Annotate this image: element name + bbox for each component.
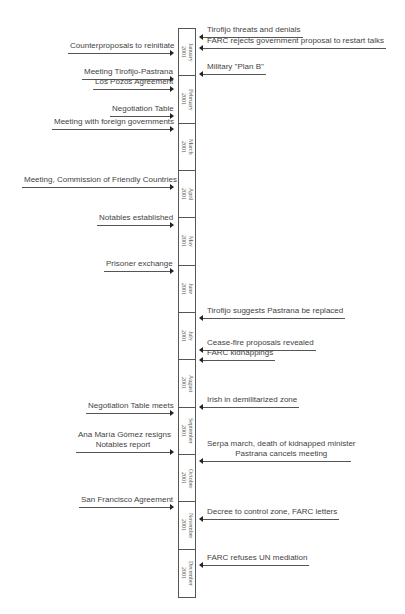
right-event: Serpa march, death of kidnapped minister… <box>201 439 358 459</box>
right-event: Military "Plan B" <box>201 62 266 72</box>
arrow-left-icon <box>199 458 203 464</box>
arrow-left-icon <box>199 562 203 568</box>
event-label: Tirofijo suggests Pastrana be replaced <box>201 306 345 316</box>
month-label: January 2001 <box>180 43 194 62</box>
left-event: Meeting with foreign governments <box>52 117 170 133</box>
month-box-february: February 2001 <box>179 76 195 123</box>
month-label: October 2001 <box>180 469 194 488</box>
arrow-right-icon <box>170 222 174 228</box>
left-event: Prisoner exchange <box>104 259 170 275</box>
left-event: Notables established <box>97 213 170 229</box>
arrow-right-icon <box>170 50 174 56</box>
month-box-july: July 2001 <box>179 313 195 360</box>
event-label: Military "Plan B" <box>201 62 266 72</box>
event-label: Meeting with foreign governments <box>52 117 170 127</box>
event-label: Tirofijo threats and denials <box>201 25 303 35</box>
arrow-right-icon <box>170 410 174 416</box>
left-event: Meeting, Commission of Friendly Countrie… <box>22 175 170 191</box>
left-event: Los Pozos Agreement <box>93 77 170 93</box>
month-box-november: November 2001 <box>179 502 195 549</box>
event-label: Los Pozos Agreement <box>93 77 170 87</box>
arrow-left-icon <box>199 71 203 77</box>
month-box-april: April 2001 <box>179 171 195 218</box>
event-label: Irish in demilitarized zone <box>201 395 299 405</box>
month-box-august: August 2001 <box>179 360 195 407</box>
arrow-right-icon <box>170 268 174 274</box>
event-label: Ana María Gómez resigns <box>76 430 170 440</box>
connector-line <box>68 53 170 54</box>
connector-line <box>203 461 351 462</box>
month-label: November 2001 <box>180 513 194 538</box>
connector-line <box>203 360 275 361</box>
right-event: FARC kidnappings <box>201 348 275 358</box>
arrow-right-icon <box>170 86 174 92</box>
month-box-september: September 2001 <box>179 408 195 455</box>
right-event: FARC rejects government proposal to rest… <box>201 36 386 46</box>
connector-line <box>203 48 386 49</box>
connector-line <box>203 565 309 566</box>
event-label: Negotiation Table <box>110 104 170 114</box>
month-label: March 2001 <box>180 139 194 155</box>
arrow-right-icon <box>170 184 174 190</box>
month-label: April 2001 <box>180 188 194 201</box>
event-label: Decree to control zone, FARC letters <box>201 507 339 517</box>
month-box-october: October 2001 <box>179 455 195 502</box>
connector-line <box>52 129 170 130</box>
left-event: Negotiation Table meets <box>86 401 170 417</box>
arrow-left-icon <box>199 315 203 321</box>
event-label: Negotiation Table meets <box>86 401 170 411</box>
left-event: Counterproposals to reinitiate <box>68 41 170 57</box>
month-box-may: May 2001 <box>179 218 195 265</box>
month-label: June 2001 <box>180 283 194 295</box>
arrow-right-icon <box>170 126 174 132</box>
connector-line <box>203 519 339 520</box>
right-event: Tirofijo threats and denials <box>201 25 303 35</box>
connector-line <box>22 187 170 188</box>
month-label: July 2001 <box>180 330 194 342</box>
event-label: Meeting Tirofijo-Pastrana <box>82 67 170 77</box>
month-label: May 2001 <box>180 235 194 247</box>
event-label: San Francisco Agreement <box>79 495 170 505</box>
connector-line <box>203 74 266 75</box>
left-event: Ana María Gómez resignsNotables report <box>76 430 170 456</box>
month-box-december: December 2001 <box>179 550 195 597</box>
right-event: FARC refuses UN mediation <box>201 553 309 563</box>
month-box-march: March 2001 <box>179 124 195 171</box>
timeline-bar: January 2001February 2001March 2001April… <box>178 28 196 598</box>
connector-line <box>86 413 170 414</box>
connector-line <box>203 407 299 408</box>
event-label: Cease-fire proposals revealed <box>201 338 316 348</box>
event-label: FARC refuses UN mediation <box>201 553 309 563</box>
connector-line <box>76 452 170 453</box>
event-label: FARC rejects government proposal to rest… <box>201 36 386 46</box>
arrow-left-icon <box>199 404 203 410</box>
event-label: Counterproposals to reinitiate <box>68 41 170 51</box>
arrow-left-icon <box>199 357 203 363</box>
event-label: Serpa march, death of kidnapped minister <box>201 439 358 449</box>
left-event: San Francisco Agreement <box>79 495 170 511</box>
right-event: Decree to control zone, FARC letters <box>201 507 339 517</box>
arrow-left-icon <box>199 516 203 522</box>
month-label: August 2001 <box>180 375 194 392</box>
connector-line <box>203 318 345 319</box>
connector-line <box>97 225 170 226</box>
event-label: FARC kidnappings <box>201 348 275 358</box>
connector-line <box>104 271 170 272</box>
month-label: September 2001 <box>180 418 194 444</box>
arrow-right-icon <box>170 504 174 510</box>
arrow-left-icon <box>199 45 203 51</box>
month-box-june: June 2001 <box>179 266 195 313</box>
month-label: December 2001 <box>180 561 194 586</box>
right-event: Tirofijo suggests Pastrana be replaced <box>201 306 345 316</box>
right-event: Cease-fire proposals revealed <box>201 338 316 348</box>
month-label: February 2001 <box>180 89 194 111</box>
month-box-january: January 2001 <box>179 29 195 76</box>
event-label: Prisoner exchange <box>104 259 170 269</box>
event-label-line2: Notables report <box>76 440 170 450</box>
event-label-line2: Pastrana cancels meeting <box>201 449 358 459</box>
event-label: Meeting, Commission of Friendly Countrie… <box>22 175 170 185</box>
arrow-right-icon <box>170 449 174 455</box>
right-event: Irish in demilitarized zone <box>201 395 299 405</box>
connector-line <box>79 507 170 508</box>
connector-line <box>93 89 170 90</box>
